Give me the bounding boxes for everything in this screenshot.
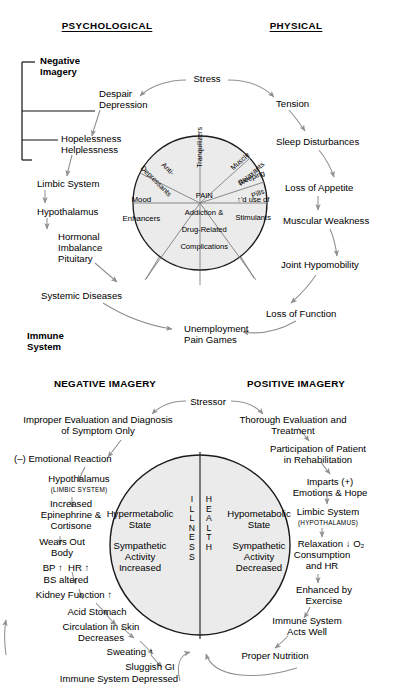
node-bp-hr: BP ↑ HR ↑ — [43, 562, 90, 573]
pie-right-line3: Sympathetic — [233, 540, 286, 551]
arrow-systemic-to-unemployment — [103, 303, 172, 329]
node-hormonal-line2: Imbalance — [58, 242, 102, 253]
immune-system-label-line1: Immune — [27, 330, 64, 341]
header-physical: PHYSICAL — [270, 20, 323, 31]
spoke-mood-enhancers-line2: Enhancers — [123, 214, 161, 223]
node-improper-eval-line2: of Symptom Only — [61, 425, 135, 436]
vertical-letter: L — [207, 523, 212, 533]
stress-label: Stress — [193, 73, 220, 84]
node-sleep-disturbances: Sleep Disturbances — [276, 136, 359, 147]
header-positive-imagery: POSITIVE IMAGERY — [247, 378, 345, 389]
node-sweating: Sweating ↑ — [107, 646, 154, 657]
node-limbic-system-bottom: Limbic System — [297, 506, 359, 517]
node-acid-stomach: Acid Stomach — [67, 606, 126, 617]
arrow-function-to-unemployment — [243, 321, 296, 333]
arrow-stressor-to-left — [152, 401, 186, 414]
node-imparts-line1: Imparts (+) — [307, 476, 354, 487]
node-wears-out-line1: Wears Out — [39, 536, 85, 547]
node-relaxation-line2: Consumption — [294, 549, 351, 560]
pie-left-line5: Increased — [119, 562, 161, 573]
vertical-letter: E — [189, 532, 195, 542]
node-unemployment-line2: Pain Games — [184, 334, 237, 345]
node-immune-acts-well-line1: Immune System — [272, 615, 341, 626]
node-hypothalamus-bottom: Hypothalamus — [48, 473, 109, 484]
node-hormonal-line1: Hormonal — [58, 231, 100, 242]
node-epinephrine-line1: Increased — [50, 498, 92, 509]
node-sluggish-gi: Sluggish GI — [125, 661, 175, 672]
node-circulation-line1: Circulation in Skin — [63, 621, 140, 632]
node-circulation-line2: Decreases — [78, 632, 124, 643]
node-relaxation-line3: and HR — [306, 560, 339, 571]
arrow-hormonal-to-systemic — [95, 263, 117, 282]
vertical-letter: N — [189, 523, 195, 533]
arrow-sleep-to-loss-appetite — [319, 150, 334, 177]
circle-core: PAIN Addiction & Drug-Related Complicati… — [172, 183, 228, 260]
node-epinephrine-line3: Cortisone — [50, 520, 91, 531]
node-unemployment-line1: Unemployment — [184, 323, 249, 334]
node-exercise-line1: Enhanced by — [296, 584, 352, 595]
node-wears-out-line2: Body — [51, 547, 73, 558]
vertical-letter: S — [189, 552, 195, 562]
arrow-stress-to-despair — [140, 80, 186, 96]
node-participation-line1: Participation of Patient — [270, 443, 366, 454]
node-limbic-system: Limbic System — [37, 178, 99, 189]
node-immune-acts-well-line2: Acts Well — [287, 626, 327, 637]
pie-right-line4: Activity — [244, 551, 274, 562]
spoke-mood-enhancers-line1: Mood — [132, 195, 152, 204]
arrow-stress-to-tension — [228, 80, 274, 97]
arrow-joint-to-loss-function — [291, 275, 316, 303]
node-muscular-weakness: Muscular Weakness — [283, 215, 369, 226]
arrow-health-outer-feedback — [5, 620, 7, 655]
stressor-label: Stressor — [190, 396, 226, 407]
vertical-letter: H — [206, 494, 212, 504]
arrow-immune-to-nutrition — [275, 636, 288, 648]
node-bs-altered: BS altered — [44, 574, 89, 585]
spoke-stimulants-line1: ↑'d use of — [237, 195, 269, 204]
node-epinephrine-line2: Epinephrine & — [41, 509, 101, 520]
arrow-tension-to-sleep — [289, 110, 305, 131]
health-vertical-label: HEALTH — [206, 495, 212, 553]
header-psychological: PSYCHOLOGICAL — [62, 20, 153, 31]
node-proper-nutrition: Proper Nutrition — [241, 650, 308, 661]
vertical-letter: H — [206, 542, 212, 552]
spoke-stimulants: ↑'d use of Stimulants — [221, 186, 277, 231]
node-immune-depressed: Immune System Depressed — [60, 673, 178, 684]
node-emotional-reaction: (–) Emotional Reaction — [14, 453, 112, 464]
spoke-mood-enhancers: Mood Enhancers — [109, 186, 165, 232]
arrow-muscular-to-joint — [330, 229, 337, 256]
node-loss-of-appetite: Loss of Appetite — [285, 182, 353, 193]
arrow-hopeless-to-limbic — [67, 155, 72, 176]
pie-right-line1: Hypometabolic — [227, 508, 290, 519]
vertical-letter: L — [190, 513, 195, 523]
arrow-illness-feedback — [178, 652, 190, 681]
node-hypothalamus: Hypothalamus — [37, 206, 98, 217]
node-despair-line1: Despair — [99, 88, 132, 99]
node-despair-line2: Depression — [99, 99, 148, 110]
vertical-letter: I — [191, 494, 194, 504]
pie-right-line2: State — [248, 519, 270, 530]
node-thorough-eval-line2: Treatment — [271, 425, 314, 436]
spoke-sleeping-pills-line1: Sleeping — [237, 168, 266, 187]
spoke-tranquilizers: Tranquilizers — [188, 123, 213, 179]
vertical-letter: T — [206, 532, 211, 542]
node-limbic-system-sub: (HYPOTHALAMUS) — [298, 517, 358, 528]
arrow-stressor-to-right — [231, 401, 263, 414]
node-relaxation-line1: Relaxation ↓ O₂ — [298, 538, 365, 549]
core-line4: Complications — [180, 242, 228, 251]
negative-imagery-label-line1: Negative — [40, 55, 80, 66]
node-hopelessness-line1: Hopelessness — [61, 133, 121, 144]
node-thorough-eval-line1: Thorough Evaluation and — [239, 414, 346, 425]
node-hopelessness-line2: Helplessness — [61, 144, 118, 155]
node-improper-eval-line1: Improper Evaluation and Diagnosis — [23, 414, 172, 425]
header-negative-imagery: NEGATIVE IMAGERY — [54, 378, 156, 389]
diagram-canvas: PSYCHOLOGICAL PHYSICAL Negative Imagery … — [0, 0, 417, 686]
node-systemic-diseases: Systemic Diseases — [41, 290, 122, 301]
vertical-letter: S — [189, 542, 195, 552]
spoke-stimulants-line2: Stimulants — [236, 213, 271, 222]
illness-vertical-label: ILLNESS — [189, 495, 195, 562]
vertical-letter: E — [206, 504, 212, 514]
pie-left-line3: Sympathetic — [114, 540, 167, 551]
pie-right-line5: Decreased — [236, 562, 282, 573]
node-hormonal-line3: Pituitary — [58, 253, 93, 264]
negative-imagery-label-line2: Imagery — [40, 66, 77, 77]
